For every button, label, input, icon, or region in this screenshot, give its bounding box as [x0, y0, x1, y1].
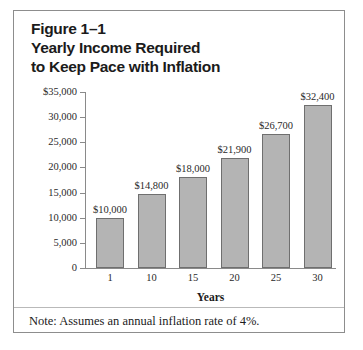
y-axis-tick-label: $35,000 — [43, 87, 77, 98]
y-axis-tick — [80, 117, 85, 118]
bar-value-label: $26,700 — [248, 121, 304, 132]
bar-value-label: $32,400 — [290, 92, 346, 103]
figure-container: Figure 1–1 Yearly Income Required to Kee… — [13, 10, 345, 333]
y-axis-tick-label: 0 — [72, 263, 77, 274]
bar — [96, 218, 124, 268]
note-divider — [14, 307, 344, 308]
y-axis-tick — [80, 142, 85, 143]
y-axis-tick-label: 10,000 — [48, 213, 77, 224]
y-axis-tick-label: 20,000 — [48, 162, 77, 173]
y-axis-tick — [80, 268, 85, 269]
bar — [262, 134, 290, 268]
x-axis-tick-label: 30 — [293, 273, 343, 284]
x-axis-title: Years — [85, 291, 336, 303]
y-axis-tick — [80, 167, 85, 168]
bar-value-label: $10,000 — [82, 205, 138, 216]
y-axis-tick-label: 30,000 — [48, 112, 77, 123]
y-axis-line — [85, 92, 86, 269]
bar-value-label: $21,900 — [207, 145, 263, 156]
y-axis-tick-label: 15,000 — [48, 188, 77, 199]
y-axis-tick — [80, 193, 85, 194]
bar — [304, 105, 332, 268]
bar-chart-plot-area: $35,00030,00025,00020,00015,00010,0005,0… — [14, 11, 346, 334]
bar — [179, 177, 207, 268]
y-axis-tick — [80, 218, 85, 219]
x-axis-line — [85, 268, 336, 269]
bar — [138, 194, 166, 268]
bar-value-label: $18,000 — [165, 164, 221, 175]
y-axis-tick — [80, 92, 85, 93]
y-axis-tick-label: 5,000 — [53, 238, 77, 249]
y-axis-tick — [80, 243, 85, 244]
figure-note: Note: Assumes an annual inflation rate o… — [29, 314, 260, 329]
bar-value-label: $14,800 — [124, 181, 180, 192]
y-axis-tick-label: 25,000 — [48, 137, 77, 148]
bar — [221, 158, 249, 268]
